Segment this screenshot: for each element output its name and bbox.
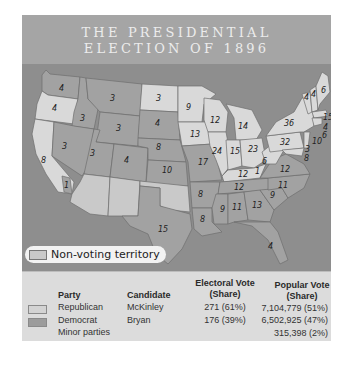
state-nm [108,177,140,216]
header-electoral-line2: (Share) [185,289,265,299]
svg-text:36: 36 [284,119,294,128]
non-voting-legend: Non-voting territory [25,246,166,263]
svg-text:9: 9 [220,205,225,214]
svg-text:4: 4 [124,156,129,165]
svg-text:9: 9 [270,191,275,200]
row-republican-candidate: McKinley [127,302,164,312]
header-candidate: Candidate [127,290,171,300]
us-map-svg: 4 4 8 1 3 3 3 3 3 4 3 4 8 10 15 9 13 17 … [22,64,331,271]
row-minor-party: Minor parties [58,327,110,337]
results-table: Party Candidate Electoral Vote (Share) P… [22,271,331,341]
svg-text:15: 15 [158,225,168,234]
svg-text:32: 32 [280,138,290,147]
svg-text:4: 4 [155,119,160,128]
svg-text:3: 3 [110,94,115,103]
title-line-2: ELECTION OF 1896 [22,41,331,57]
header-popular-line2: (Share) [262,291,342,301]
us-map: 4 4 8 1 3 3 3 3 3 4 3 4 8 10 15 9 13 17 … [22,64,331,271]
svg-text:4: 4 [59,84,64,93]
svg-text:11: 11 [278,181,288,190]
svg-text:10: 10 [162,166,172,175]
header-popular-line1: Popular Vote [262,280,342,290]
election-map-figure: THE PRESIDENTIAL ELECTION OF 1896 [22,15,331,340]
svg-text:8: 8 [41,156,46,165]
svg-text:3: 3 [116,124,121,133]
svg-text:6: 6 [322,131,327,140]
svg-text:24: 24 [212,147,222,156]
svg-text:14: 14 [238,122,248,131]
republican-swatch [28,305,47,314]
row-democrat-party: Democrat [58,315,97,325]
row-democrat-candidate: Bryan [127,315,151,325]
svg-text:13: 13 [190,130,200,139]
svg-text:8: 8 [304,154,309,163]
state-ct [312,118,322,126]
header-party: Party [58,290,81,300]
svg-text:1: 1 [64,181,69,190]
state-wi [204,98,228,132]
svg-text:12: 12 [280,165,290,174]
title-line-1: THE PRESIDENTIAL [22,15,331,41]
svg-text:3: 3 [62,142,67,151]
svg-text:8: 8 [156,143,161,152]
svg-text:3: 3 [156,94,161,103]
svg-text:13: 13 [252,201,262,210]
svg-text:6: 6 [321,86,326,95]
non-voting-label: Non-voting territory [51,248,160,261]
svg-text:12: 12 [210,116,220,125]
svg-text:4: 4 [304,93,309,102]
state-az [70,174,110,216]
svg-text:4: 4 [268,242,273,251]
svg-text:12: 12 [238,170,248,179]
row-republican-party: Republican [58,302,103,312]
svg-text:17: 17 [198,158,209,167]
svg-text:4: 4 [52,104,57,113]
non-voting-swatch [29,250,47,260]
state-fl [234,222,288,264]
svg-text:3: 3 [90,149,95,158]
svg-text:8: 8 [198,190,203,199]
svg-text:10: 10 [312,137,322,146]
svg-text:3: 3 [305,145,310,154]
svg-text:6: 6 [262,157,267,166]
row-minor-popular: 315,398 (2%) [244,328,328,338]
svg-text:15: 15 [323,113,331,122]
svg-text:23: 23 [248,145,258,154]
row-republican-popular: 7,104,779 (51%) [244,303,328,313]
svg-text:11: 11 [232,203,242,212]
title-band: THE PRESIDENTIAL ELECTION OF 1896 [22,15,331,64]
row-democrat-popular: 6,502,925 (47%) [244,315,328,325]
svg-text:12: 12 [234,183,244,192]
svg-text:9: 9 [186,103,191,112]
svg-text:4: 4 [311,90,316,99]
svg-text:8: 8 [200,215,205,224]
svg-text:3: 3 [80,114,85,123]
svg-text:1: 1 [255,167,260,176]
svg-text:15: 15 [230,147,240,156]
header-electoral-line1: Electoral Vote [185,278,265,288]
democrat-swatch [28,318,47,327]
